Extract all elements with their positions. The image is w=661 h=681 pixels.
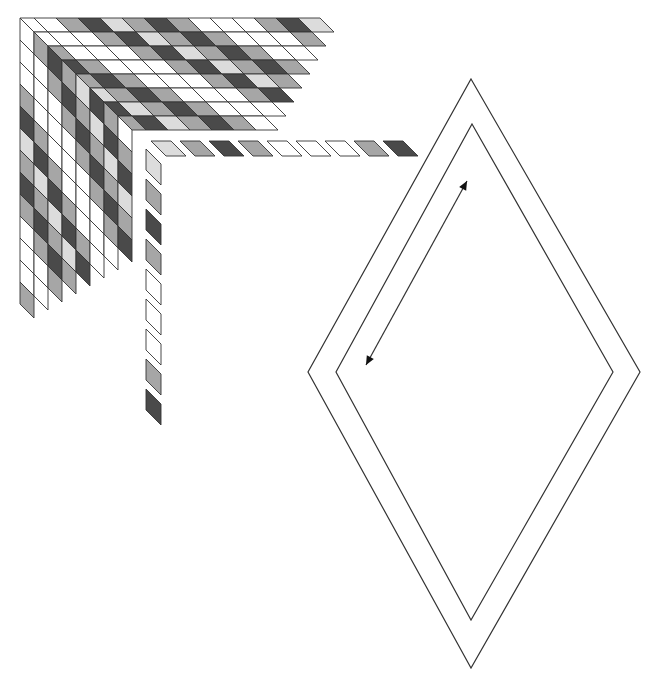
strip-cell bbox=[146, 299, 161, 335]
nested-diamond bbox=[308, 79, 640, 668]
strip-cell bbox=[146, 149, 161, 185]
strip-cell bbox=[180, 141, 215, 156]
shaded-cube bbox=[20, 18, 334, 318]
strip-cell bbox=[151, 141, 186, 156]
strip-cell bbox=[146, 239, 161, 275]
horizontal-color-strip bbox=[151, 141, 418, 156]
strip-cell bbox=[146, 389, 161, 425]
strip-cell bbox=[146, 329, 161, 365]
strip-cell bbox=[325, 141, 360, 156]
diagram-canvas bbox=[0, 0, 661, 681]
arrow-shaft bbox=[366, 181, 467, 365]
strip-cell bbox=[146, 209, 161, 245]
figure-svg bbox=[0, 0, 661, 681]
strip-cell bbox=[383, 141, 418, 156]
outer-diamond bbox=[308, 79, 640, 668]
inner-diamond bbox=[336, 124, 613, 620]
strip-cell bbox=[267, 141, 302, 156]
strip-cell bbox=[296, 141, 331, 156]
strip-cell bbox=[354, 141, 389, 156]
strip-cell bbox=[146, 269, 161, 305]
strip-cell bbox=[209, 141, 244, 156]
strip-cell bbox=[238, 141, 273, 156]
double-arrow-icon bbox=[366, 181, 467, 365]
vertical-color-strip bbox=[146, 149, 161, 425]
strip-cell bbox=[146, 179, 161, 215]
strip-cell bbox=[146, 359, 161, 395]
